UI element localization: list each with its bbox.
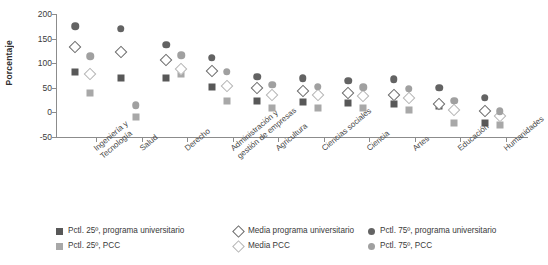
legend-marker-diamond-open-icon	[232, 225, 245, 238]
legend-label: Pctl. 75º, PCC	[380, 242, 432, 250]
chart-figure: Porcentaje 200150100500-50 Ingeniería y …	[0, 0, 548, 265]
legend-label: Pctl. 25º, PCC	[68, 242, 120, 250]
legend-item[interactable]: Pctl. 75º, PCC	[368, 239, 496, 254]
legend-marker-square-icon	[56, 228, 63, 235]
legend-label: Pctl. 25º, programa universitario	[68, 227, 184, 235]
x-tick-label: Ciencia	[365, 129, 392, 154]
legend-item[interactable]: Media PCC	[234, 239, 354, 254]
chart-legend: Pctl. 25º, programa universitarioPctl. 2…	[56, 224, 536, 258]
x-tick-label: Ingeniería y Tecnología	[92, 119, 137, 161]
legend-column: Media programa universitarioMedia PCC	[234, 224, 354, 254]
x-tick-label: Educación	[456, 122, 491, 154]
legend-item[interactable]: Pctl. 75º, programa universitario	[368, 224, 496, 239]
legend-column: Pctl. 25º, programa universitarioPctl. 2…	[56, 224, 184, 254]
legend-marker-square-icon	[56, 243, 63, 250]
legend-item[interactable]: Pctl. 25º, PCC	[56, 239, 184, 254]
legend-marker-circle-icon	[368, 228, 375, 235]
legend-label: Pctl. 75º, programa universitario	[380, 227, 496, 235]
legend-item[interactable]: Pctl. 25º, programa universitario	[56, 224, 184, 239]
legend-item[interactable]: Media programa universitario	[234, 224, 354, 239]
x-tick-label: Humanidades	[502, 114, 546, 153]
legend-marker-circle-icon	[368, 243, 375, 250]
legend-column: Pctl. 75º, programa universitarioPctl. 7…	[368, 224, 496, 254]
x-tick-label: Artes	[411, 134, 432, 154]
legend-label: Media PCC	[248, 242, 290, 250]
x-tick-label: Derecho	[183, 127, 213, 154]
legend-label: Media programa universitario	[248, 227, 354, 235]
x-tick-label: Administración y gestión de empresas	[229, 98, 299, 161]
x-tick-label: Salud	[138, 133, 160, 154]
legend-marker-diamond-open-icon	[232, 240, 245, 253]
